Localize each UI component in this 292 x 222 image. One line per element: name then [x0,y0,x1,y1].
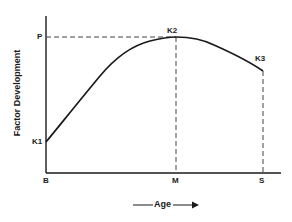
point-k2: K2 [167,27,177,35]
point-k1: K1 [32,138,42,146]
point-k3: K3 [255,55,265,63]
y-axis-label: Factor Development [12,43,22,143]
tick-b: B [43,177,49,185]
chart-canvas [0,0,292,222]
tick-m: M [172,177,179,185]
tick-s: S [259,177,264,185]
development-curve [46,37,263,142]
tick-p: P [37,33,42,41]
x-axis-label: Age [154,199,171,209]
age-arrow-head-icon [192,202,199,209]
